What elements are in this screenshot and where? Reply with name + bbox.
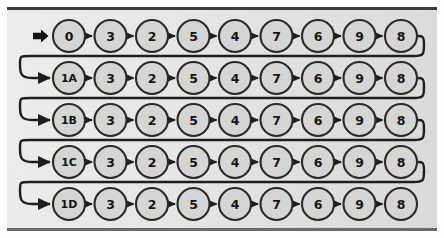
graph-canvas: 0325476981A325476981B325476981C325476981… [0, 0, 444, 238]
graph-node[interactable]: 9 [344, 146, 376, 178]
graph-node[interactable]: 9 [344, 188, 376, 220]
node-label: 5 [189, 29, 198, 44]
node-label: 6 [314, 197, 323, 212]
graph-node[interactable]: 6 [302, 188, 334, 220]
start-arrow-icon [33, 30, 49, 43]
graph-node[interactable]: 4 [219, 104, 251, 136]
graph-node[interactable]: 5 [178, 104, 210, 136]
graph-node[interactable]: 4 [219, 146, 251, 178]
graph-node[interactable]: 8 [385, 146, 417, 178]
graph-node[interactable]: 2 [136, 188, 168, 220]
graph-node[interactable]: 6 [302, 20, 334, 52]
node-label: 4 [231, 155, 240, 170]
node-label: 9 [355, 113, 364, 128]
node-label: 1C [61, 156, 77, 169]
node-label: 9 [355, 155, 364, 170]
node-label: 2 [148, 197, 157, 212]
graph-node[interactable]: 1D [53, 188, 85, 220]
graph-node[interactable]: 9 [344, 20, 376, 52]
graph-node[interactable]: 5 [178, 20, 210, 52]
node-label: 9 [355, 71, 364, 86]
node-label: 3 [106, 29, 115, 44]
node-label: 9 [355, 197, 364, 212]
graph-node[interactable]: 5 [178, 188, 210, 220]
node-label: 5 [189, 197, 198, 212]
graph-node[interactable]: 1C [53, 146, 85, 178]
node-label: 2 [148, 113, 157, 128]
node-label: 2 [148, 71, 157, 86]
node-label: 8 [397, 113, 406, 128]
graph-node[interactable]: 1B [53, 104, 85, 136]
node-label: 8 [397, 71, 406, 86]
node-label: 6 [314, 29, 323, 44]
node-label: 6 [314, 71, 323, 86]
node-label: 5 [189, 71, 198, 86]
node-label: 4 [231, 113, 240, 128]
node-label: 5 [189, 155, 198, 170]
graph-node[interactable]: 7 [261, 188, 293, 220]
node-label: 8 [397, 197, 406, 212]
node-label: 7 [272, 71, 281, 86]
node-label: 7 [272, 197, 281, 212]
graph-node[interactable]: 9 [344, 62, 376, 94]
graph-node[interactable]: 7 [261, 20, 293, 52]
node-label: 3 [106, 113, 115, 128]
graph-node[interactable]: 2 [136, 62, 168, 94]
node-label: 1D [61, 198, 78, 211]
node-label: 3 [106, 71, 115, 86]
graph-node[interactable]: 8 [385, 62, 417, 94]
graph-node[interactable]: 3 [95, 188, 127, 220]
node-group: 0325476981A325476981B325476981C325476981… [53, 20, 417, 220]
figure-container: 0325476981A325476981B325476981C325476981… [0, 0, 444, 238]
graph-node[interactable]: 6 [302, 104, 334, 136]
graph-node[interactable]: 2 [136, 104, 168, 136]
node-label: 8 [397, 29, 406, 44]
node-label: 6 [314, 113, 323, 128]
graph-node[interactable]: 4 [219, 62, 251, 94]
graph-node[interactable]: 7 [261, 146, 293, 178]
graph-node[interactable]: 4 [219, 20, 251, 52]
graph-node[interactable]: 5 [178, 146, 210, 178]
node-label: 1B [61, 114, 77, 127]
graph-node[interactable]: 4 [219, 188, 251, 220]
graph-node[interactable]: 6 [302, 62, 334, 94]
node-label: 2 [148, 155, 157, 170]
node-label: 4 [231, 71, 240, 86]
node-label: 2 [148, 29, 157, 44]
node-label: 7 [272, 155, 281, 170]
node-label: 5 [189, 113, 198, 128]
node-label: 7 [272, 113, 281, 128]
graph-node[interactable]: 1A [53, 62, 85, 94]
node-label: 9 [355, 29, 364, 44]
node-label: 3 [106, 155, 115, 170]
graph-node[interactable]: 8 [385, 20, 417, 52]
graph-node[interactable]: 8 [385, 188, 417, 220]
graph-node[interactable]: 8 [385, 104, 417, 136]
node-label: 4 [231, 197, 240, 212]
node-label: 8 [397, 155, 406, 170]
node-label: 7 [272, 29, 281, 44]
graph-node[interactable]: 6 [302, 146, 334, 178]
graph-node[interactable]: 3 [95, 62, 127, 94]
graph-node[interactable]: 3 [95, 146, 127, 178]
graph-node[interactable]: 3 [95, 104, 127, 136]
graph-node[interactable]: 3 [95, 20, 127, 52]
graph-node[interactable]: 0 [53, 20, 85, 52]
graph-node[interactable]: 7 [261, 104, 293, 136]
node-label: 3 [106, 197, 115, 212]
node-label: 4 [231, 29, 240, 44]
graph-node[interactable]: 5 [178, 62, 210, 94]
graph-node[interactable]: 2 [136, 20, 168, 52]
graph-node[interactable]: 9 [344, 104, 376, 136]
graph-node[interactable]: 2 [136, 146, 168, 178]
start-marker-group [33, 30, 49, 43]
node-label: 0 [65, 29, 74, 44]
node-label: 6 [314, 155, 323, 170]
graph-node[interactable]: 7 [261, 62, 293, 94]
node-label: 1A [61, 72, 78, 85]
